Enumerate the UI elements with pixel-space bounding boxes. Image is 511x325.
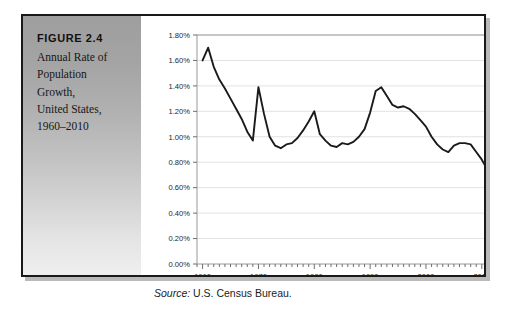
y-axis-tick-label: 1.20%: [168, 107, 190, 116]
y-axis-tick-label: 0.00%: [168, 260, 190, 269]
figure-caption-text: FIGURE 2.4 Annual Rate of Population Gro…: [37, 30, 135, 135]
source-note: Source: U.S. Census Bureau.: [154, 287, 292, 299]
source-value: U.S. Census Bureau.: [190, 287, 292, 299]
y-axis-tick-label: 0.80%: [168, 158, 190, 167]
caption-line-5: 1960–2010: [37, 118, 135, 135]
line-chart-plot: 0.00%0.20%0.40%0.60%0.80%1.00%1.20%1.40%…: [141, 16, 484, 275]
caption-line-1: Annual Rate of: [37, 49, 135, 66]
caption-line-4: United States,: [37, 101, 135, 118]
x-axis-tick-label: 2000: [418, 272, 435, 275]
frame-shadow-right: [486, 18, 490, 281]
y-axis-tick-label: 1.00%: [168, 133, 190, 142]
figure-number-label: FIGURE 2.4: [37, 30, 135, 47]
x-axis-tick-label: 1980: [306, 272, 323, 275]
frame-shadow-bottom: [25, 277, 490, 281]
figure-root: FIGURE 2.4 Annual Rate of Population Gro…: [0, 0, 511, 325]
x-axis-tick-label: 1990: [362, 272, 379, 275]
y-axis-tick-label: 0.20%: [168, 234, 190, 243]
y-axis-tick-label: 1.40%: [168, 82, 190, 91]
x-axis-tick-label: 1960: [194, 272, 211, 275]
figure-frame: FIGURE 2.4 Annual Rate of Population Gro…: [21, 14, 486, 277]
chart-area: 0.00%0.20%0.40%0.60%0.80%1.00%1.20%1.40%…: [141, 16, 484, 275]
plot-border: [197, 35, 484, 264]
y-axis-tick-label: 1.60%: [168, 56, 190, 65]
x-axis-tick-label: 2010: [473, 272, 484, 275]
x-axis-tick-label: 1970: [250, 272, 267, 275]
y-axis-tick-label: 1.80%: [168, 31, 190, 40]
figure-caption-panel: FIGURE 2.4 Annual Rate of Population Gro…: [23, 16, 141, 275]
data-series-line: [203, 48, 484, 170]
caption-line-3: Growth,: [37, 84, 135, 101]
y-axis-tick-label: 0.60%: [168, 183, 190, 192]
y-axis-tick-label: 0.40%: [168, 209, 190, 218]
caption-line-2: Population: [37, 66, 135, 83]
source-label: Source:: [154, 287, 190, 299]
